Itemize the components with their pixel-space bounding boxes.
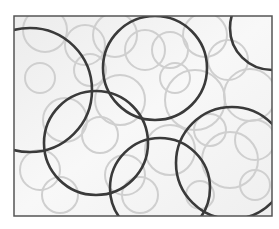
circles-artwork bbox=[0, 0, 279, 229]
